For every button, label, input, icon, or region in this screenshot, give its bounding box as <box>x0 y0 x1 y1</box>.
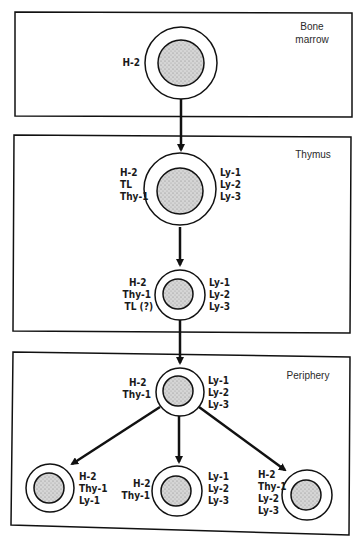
marker-label: H-2 <box>129 277 147 288</box>
marker-label: Ly-2 <box>220 179 241 190</box>
region-label-marrow: marrow <box>295 34 329 45</box>
marker-label: H-2 <box>79 471 97 482</box>
marker-label: Ly-2 <box>208 483 229 494</box>
cell-nucleus <box>157 168 203 214</box>
marker-label: Ly-1 <box>209 277 230 288</box>
marker-label: Ly-2 <box>208 387 229 398</box>
region-label-thymus: Thymus <box>295 149 331 160</box>
cell-nucleus <box>161 476 191 506</box>
cell-periphery-ly23: H-2 Thy-1 Ly-2 Ly-3 <box>258 469 332 520</box>
marker-label: Thy-1 <box>122 490 150 501</box>
cell-nucleus <box>158 40 204 86</box>
marker-label: Ly-3 <box>258 505 279 516</box>
marker-label: H-2 <box>129 377 147 388</box>
marker-label: Thy-1 <box>123 389 151 400</box>
cell-nucleus <box>291 480 321 510</box>
marker-label: Ly-3 <box>208 399 229 410</box>
marker-label: Thy-1 <box>120 191 148 202</box>
marker-label: Ly-1 <box>79 495 100 506</box>
marker-label: TL (?) <box>125 301 153 312</box>
differentiation-diagram: Bone marrow Thymus Periphery H-2 H-2 TL … <box>0 0 363 542</box>
marker-label: Ly-3 <box>209 301 230 312</box>
cell-periphery-ly1: H-2 Thy-1 Ly-1 <box>26 464 107 512</box>
marker-label: H-2 <box>122 57 140 68</box>
region-label-periphery: Periphery <box>287 370 330 381</box>
cell-nucleus <box>163 376 193 406</box>
marker-label: Ly-2 <box>258 493 279 504</box>
cell-nucleus <box>34 473 64 503</box>
region-label-bone: Bone <box>300 21 324 32</box>
cell-bone-marrow-stem: H-2 <box>122 27 217 99</box>
cell-nucleus <box>163 279 193 309</box>
marker-label: Thy-1 <box>123 289 151 300</box>
marker-label: Ly-2 <box>209 289 230 300</box>
cell-periphery-ly123: H-2 Thy-1 Ly-1 Ly-2 Ly-3 <box>122 466 229 516</box>
cell-periphery-precursor: H-2 Thy-1 Ly-1 Ly-2 Ly-3 <box>123 368 229 416</box>
marker-label: Ly-1 <box>220 167 241 178</box>
cell-thymus-medullary: H-2 Thy-1 TL (?) Ly-1 Ly-2 Ly-3 <box>123 270 230 320</box>
marker-label: Ly-3 <box>208 495 229 506</box>
marker-label: H-2 <box>120 167 138 178</box>
marker-label: Thy-1 <box>79 483 107 494</box>
cell-thymus-cortical: H-2 TL Thy-1 Ly-1 Ly-2 Ly-3 <box>120 153 241 225</box>
marker-label: Ly-1 <box>208 375 229 386</box>
marker-label: Thy-1 <box>258 481 286 492</box>
marker-label: TL <box>120 179 132 190</box>
marker-label: Ly-1 <box>208 471 229 482</box>
marker-label: H-2 <box>133 478 151 489</box>
arrow-to-ly1 <box>72 407 160 464</box>
marker-label: Ly-3 <box>220 191 241 202</box>
marker-label: H-2 <box>258 469 276 480</box>
arrow-to-ly23 <box>199 407 285 470</box>
